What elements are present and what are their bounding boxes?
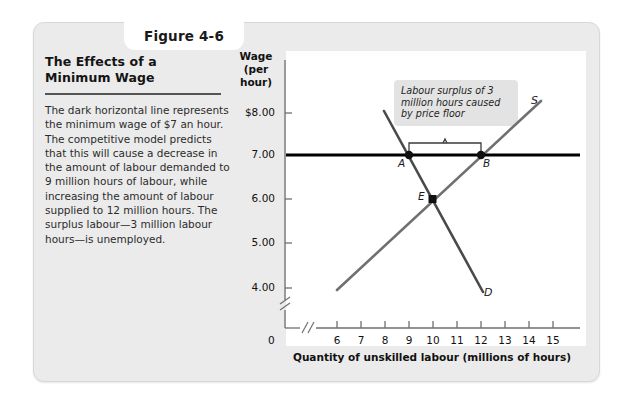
figure-number-tab: Figure 4-6 bbox=[124, 22, 244, 50]
x-tick-label-13: 13 bbox=[494, 334, 516, 346]
figure-title: The Effects of a Minimum Wage bbox=[45, 54, 230, 86]
y-tick-label-7: 7.00 bbox=[229, 148, 275, 160]
point-label-e: E bbox=[418, 190, 425, 202]
x-tick-label-14: 14 bbox=[518, 334, 540, 346]
y-tick-label-4: 4.00 bbox=[229, 281, 275, 293]
x-tick-label-7: 7 bbox=[350, 334, 372, 346]
caption-column: The Effects of a Minimum Wage The dark h… bbox=[45, 54, 230, 246]
y-tick-label-5: 5.00 bbox=[229, 236, 275, 248]
x-tick-label-6: 6 bbox=[326, 334, 348, 346]
x-tick-label-9: 9 bbox=[398, 334, 420, 346]
x-tick-label-11: 11 bbox=[446, 334, 468, 346]
figure-title-line1: The Effects of a bbox=[45, 54, 157, 69]
y-tick-label-8: $8.00 bbox=[229, 106, 275, 118]
y-axis-title-line1: Wage bbox=[240, 50, 273, 62]
x-tick-label-15: 15 bbox=[542, 334, 564, 346]
x-tick-label-8: 8 bbox=[374, 334, 396, 346]
supply-curve-label: S bbox=[531, 94, 538, 107]
x-tick-label-12: 12 bbox=[470, 334, 492, 346]
figure-caption: The dark horizontal line represents the … bbox=[45, 103, 230, 246]
figure-title-line2: Minimum Wage bbox=[45, 70, 155, 85]
demand-curve-label: D bbox=[484, 286, 492, 299]
title-divider bbox=[45, 93, 221, 95]
point-label-a: A bbox=[398, 157, 405, 169]
figure-root: Figure 4-6 The Effects of a Minimum Wage… bbox=[0, 0, 629, 404]
surplus-callout: Labour surplus of 3 million hours caused… bbox=[394, 80, 518, 126]
point-label-b: B bbox=[483, 157, 490, 169]
y-axis-title: Wage (per hour) bbox=[228, 50, 284, 89]
x-axis-title: Quantity of unskilled labour (millions o… bbox=[282, 351, 582, 363]
y-tick-label-6: 6.00 bbox=[229, 192, 275, 204]
x-tick-label-10: 10 bbox=[422, 334, 444, 346]
figure-card: Figure 4-6 The Effects of a Minimum Wage… bbox=[33, 22, 600, 382]
y-axis-title-line2: (per hour) bbox=[240, 63, 272, 88]
origin-label: 0 bbox=[268, 334, 275, 346]
